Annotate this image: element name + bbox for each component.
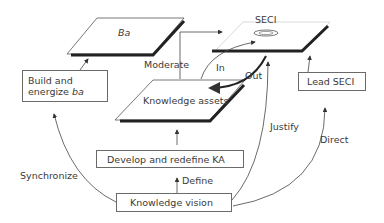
- out-label: Out: [245, 70, 262, 81]
- direct-label: Direct: [320, 134, 348, 145]
- lead-seci-box: Lead SECI: [298, 72, 366, 91]
- ba-plane-label: Ba: [118, 27, 130, 38]
- seci-plane: [212, 22, 330, 51]
- knowledge-vision-box: Knowledge vision: [116, 193, 232, 212]
- justify-label: Justify: [270, 121, 299, 132]
- define-label: Define: [182, 175, 213, 186]
- build-energize-ba-italic: ba: [72, 86, 84, 97]
- in-label: In: [216, 62, 225, 73]
- develop-redefine-ka-box: Develop and redefine KA: [96, 150, 244, 168]
- build-energize-ba-box: Build and energize ba: [22, 70, 108, 102]
- synchronize-label: Synchronize: [20, 170, 78, 181]
- seci-plane-label: SECI: [255, 14, 276, 25]
- knowledge-assets-label: Knowledge assets: [143, 95, 228, 106]
- build-energize-line2: energize ba: [28, 86, 102, 97]
- build-energize-line1: Build and: [28, 75, 102, 86]
- build-energize-prefix: energize: [28, 86, 72, 97]
- moderate-label: Moderate: [144, 59, 189, 70]
- diagram-canvas: [0, 0, 384, 223]
